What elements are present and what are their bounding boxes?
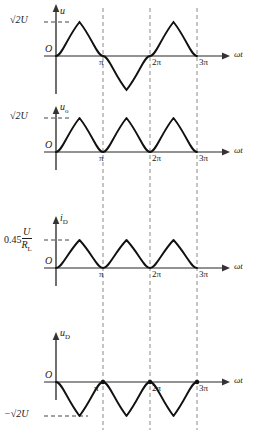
panel-uo-x-arrow — [222, 149, 230, 156]
panel-u-group — [44, 4, 230, 94]
panel-id-amplitude-coefficient: 0.45 — [4, 234, 22, 245]
panel-id-tick-3pi: 3π — [199, 270, 208, 279]
panel-u-tick-2pi: 2π — [152, 58, 161, 67]
panel-id-y-axis-label: iD — [60, 213, 68, 226]
panel-id-y-arrow — [53, 216, 60, 224]
panel-ud-node-pi — [101, 380, 106, 385]
panel-ud-tick-2pi: 2π — [152, 384, 161, 393]
panel-ud-y-axis-label-sub: D — [65, 333, 70, 341]
panel-id-y-axis-label-sub: D — [63, 218, 68, 226]
panel-ud-y-arrow — [53, 332, 60, 340]
waveform-svg — [0, 0, 257, 433]
panel-ud-group — [44, 332, 230, 416]
panel-ud-curve — [56, 382, 197, 416]
panel-u-tick-3pi: 3π — [199, 58, 208, 67]
panel-u-tick-pi: π — [99, 58, 104, 67]
panel-uo-origin-label: O — [45, 140, 52, 150]
panel-u-amplitude-label: √2U — [10, 15, 28, 25]
panel-id-origin-label: O — [45, 256, 52, 266]
guide-lines-group — [103, 8, 197, 430]
panel-ud-amplitude-label: −√2U — [4, 409, 28, 419]
panel-uo-curve — [56, 118, 197, 152]
waveform-figure: √2U u O π 2π 3π ωt √2U uo O π 2π 3π ωt 0… — [0, 0, 257, 433]
panel-uo-amplitude-label: √2U — [10, 111, 28, 121]
panel-u-origin-label: O — [45, 44, 52, 54]
panel-uo-tick-pi: π — [99, 154, 104, 163]
panel-id-amplitude-numerator: U — [22, 226, 32, 239]
panel-ud-origin-label: O — [45, 370, 52, 380]
panel-u-y-axis-label: u — [60, 6, 65, 16]
panel-uo-y-axis-label: uo — [60, 102, 69, 115]
panel-id-curve — [56, 240, 197, 268]
panel-uo-tick-2pi: 2π — [152, 154, 161, 163]
panel-u-x-axis-label: ωt — [234, 50, 243, 59]
panel-ud-tick-3pi: 3π — [199, 384, 208, 393]
panel-id-x-axis-label: ωt — [234, 262, 243, 271]
panel-ud-x-arrow — [222, 379, 230, 386]
panel-uo-x-axis-label: ωt — [234, 146, 243, 155]
panel-uo-y-axis-label-sub: o — [65, 107, 69, 115]
panel-ud-y-axis-label: uD — [60, 328, 70, 341]
panel-id-tick-2pi: 2π — [152, 270, 161, 279]
panel-id-amplitude-label: 0.45URL — [4, 227, 32, 254]
panel-id-tick-pi: π — [99, 270, 104, 279]
panel-id-amplitude-denominator: RL — [22, 239, 32, 253]
panel-uo-tick-3pi: 3π — [199, 154, 208, 163]
panel-u-y-arrow — [53, 4, 60, 12]
panel-id-amplitude-fraction: URL — [22, 226, 32, 253]
panel-u-x-arrow — [222, 53, 230, 60]
panel-id-x-arrow — [222, 265, 230, 272]
panel-uo-y-arrow — [53, 106, 60, 114]
panel-ud-tick-pi: π — [94, 384, 99, 393]
panel-ud-x-axis-label: ωt — [234, 376, 243, 385]
panel-id-amplitude-denominator-sub: L — [28, 245, 32, 253]
